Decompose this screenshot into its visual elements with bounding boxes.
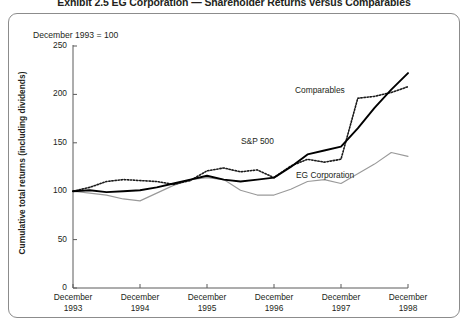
x-tick-label-month: December bbox=[306, 292, 376, 303]
x-tick-label: December1998 bbox=[373, 292, 443, 313]
x-tick-label-month: December bbox=[239, 292, 309, 303]
series-label-comparables: Comparables bbox=[295, 85, 345, 95]
y-tick-label: 50 bbox=[41, 234, 67, 244]
x-tick-label-month: December bbox=[38, 292, 108, 303]
series-label-s-p-500: S&P 500 bbox=[241, 136, 274, 146]
x-tick-label-year: 1995 bbox=[172, 303, 242, 314]
x-tick-label-year: 1998 bbox=[373, 303, 443, 314]
x-tick-label-year: 1993 bbox=[38, 303, 108, 314]
baseline-note: December 1993 = 100 bbox=[33, 30, 118, 40]
x-tick-label: December1993 bbox=[38, 292, 108, 313]
y-tick-label: 0 bbox=[41, 282, 67, 292]
y-tick-label: 150 bbox=[41, 137, 67, 147]
x-tick-label: December1996 bbox=[239, 292, 309, 313]
x-tick-label-month: December bbox=[105, 292, 175, 303]
x-tick-label-month: December bbox=[373, 292, 443, 303]
y-tick-label: 250 bbox=[41, 40, 67, 50]
x-tick-label: December1997 bbox=[306, 292, 376, 313]
x-tick-label-month: December bbox=[172, 292, 242, 303]
series-label-eg-corporation: EG Corporation bbox=[296, 170, 354, 180]
y-tick-label: 100 bbox=[41, 185, 67, 195]
exhibit-title: Exhibit 2.5 EG Corporation — Shareholder… bbox=[0, 0, 468, 8]
x-tick-label-year: 1996 bbox=[239, 303, 309, 314]
x-tick-label-year: 1997 bbox=[306, 303, 376, 314]
y-tick-label: 200 bbox=[41, 88, 67, 98]
y-axis-title: Cumulative total returns (including divi… bbox=[17, 48, 27, 278]
x-tick-label: December1995 bbox=[172, 292, 242, 313]
x-tick-label-year: 1994 bbox=[105, 303, 175, 314]
x-tick-label: December1994 bbox=[105, 292, 175, 313]
chart-panel: December 1993 = 100 bbox=[8, 13, 460, 318]
